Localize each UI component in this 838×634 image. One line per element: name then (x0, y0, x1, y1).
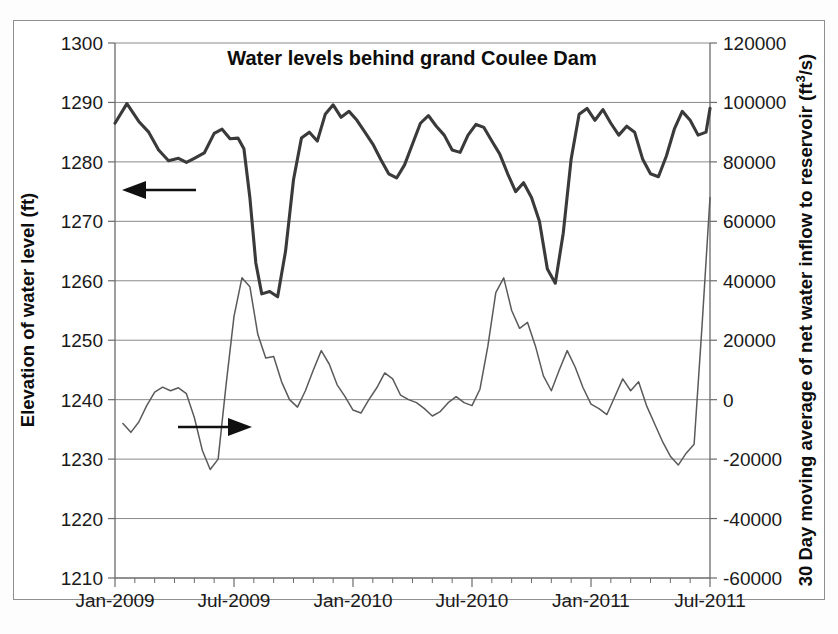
left-axis-tick-label: 1220 (61, 509, 103, 530)
right-axis-tick-labels: 120000100000800006000040000200000-20000-… (723, 33, 786, 589)
right-axis-title-suffix: /s) (795, 54, 816, 76)
right-axis-tick-label: 120000 (723, 33, 786, 54)
right-axis-tick-label: -20000 (723, 449, 782, 470)
left-axis-tick-label: 1240 (61, 390, 103, 411)
left-axis-tick-label: 1230 (61, 449, 103, 470)
right-axis-arrow (178, 418, 252, 436)
right-axis-tick-label: 0 (723, 390, 734, 411)
left-axis-tick-label: 1260 (61, 271, 103, 292)
left-axis-tick-label: 1280 (61, 152, 103, 173)
right-axis-tick-label: 20000 (723, 330, 776, 351)
x-axis-tick-label: Jan-2010 (313, 590, 392, 611)
left-axis-tick-labels: 1300129012801270126012501240123012201210 (61, 33, 103, 589)
series-elevation-line (115, 104, 710, 297)
x-axis-tick-label: Jan-2011 (552, 590, 630, 611)
left-axis-tick-label: 1290 (61, 92, 103, 113)
left-axis-tick-label: 1250 (61, 330, 103, 351)
right-axis-title-superscript: 3 (793, 75, 808, 82)
x-axis-tick-label: Jul-2009 (198, 590, 271, 611)
left-axis-tick-label: 1300 (61, 33, 103, 54)
right-axis-ticks (710, 43, 717, 578)
x-axis-tick-label: Jul-2011 (674, 590, 745, 611)
right-axis-title: 30 Day moving average of net water inflo… (793, 54, 816, 587)
gridlines (115, 43, 710, 519)
left-axis-tick-label: 1270 (61, 211, 103, 232)
right-axis-title-prefix: 30 Day moving average of net water inflo… (795, 83, 816, 587)
right-axis-tick-label: 60000 (723, 211, 776, 232)
chart-svg: 1300129012801270126012501240123012201210… (0, 0, 838, 634)
figure-canvas: 1300129012801270126012501240123012201210… (0, 0, 838, 634)
right-axis-tick-label: -60000 (723, 568, 782, 589)
x-axis-ticks (115, 578, 710, 587)
right-axis-tick-label: 40000 (723, 271, 776, 292)
x-axis-tick-labels: Jan-2009Jul-2009Jan-2010Jul-2010Jan-2011… (75, 590, 745, 611)
left-axis-arrow (122, 181, 196, 199)
left-axis-tick-label: 1210 (61, 568, 103, 589)
x-axis-tick-label: Jul-2010 (436, 590, 509, 611)
right-axis-tick-label: 100000 (723, 92, 786, 113)
x-axis-tick-label: Jan-2009 (75, 590, 154, 611)
right-axis-tick-label: -40000 (723, 509, 782, 530)
left-axis-title: Elevation of water level (ft) (17, 193, 38, 427)
chart-title: Water levels behind grand Coulee Dam (227, 47, 596, 69)
right-axis-tick-label: 80000 (723, 152, 776, 173)
series-inflow-line (123, 198, 710, 470)
